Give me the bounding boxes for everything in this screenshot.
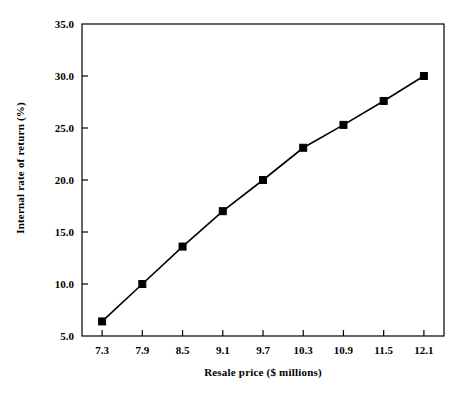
plot-area — [0, 0, 469, 395]
chart-container: Internal rate of return (%) Resale price… — [0, 0, 469, 395]
data-point-markers — [99, 73, 428, 325]
data-series-line — [102, 76, 424, 321]
y-axis-ticks — [82, 76, 88, 284]
x-axis-ticks — [102, 330, 424, 336]
